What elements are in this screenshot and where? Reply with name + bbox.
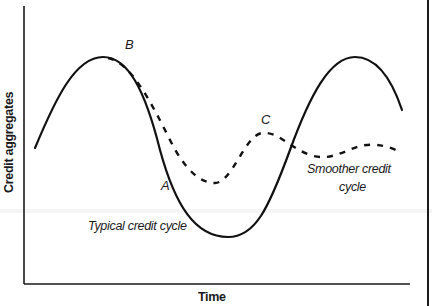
- x-axis-title: Time: [198, 290, 226, 304]
- smoother-cycle-label-line1: Smoother credit: [307, 162, 392, 176]
- credit-cycle-chart: B C A Typical credit cycle Smoother cred…: [0, 0, 432, 306]
- typical-cycle-label: Typical credit cycle: [88, 219, 187, 233]
- point-label-c: C: [261, 112, 271, 127]
- y-axis-title: Credit aggregates: [2, 91, 16, 193]
- point-label-b: B: [125, 37, 134, 52]
- smoother-cycle-label-line2: cycle: [339, 180, 366, 194]
- point-label-a: A: [160, 178, 170, 193]
- scan-artifact-band: [0, 209, 432, 213]
